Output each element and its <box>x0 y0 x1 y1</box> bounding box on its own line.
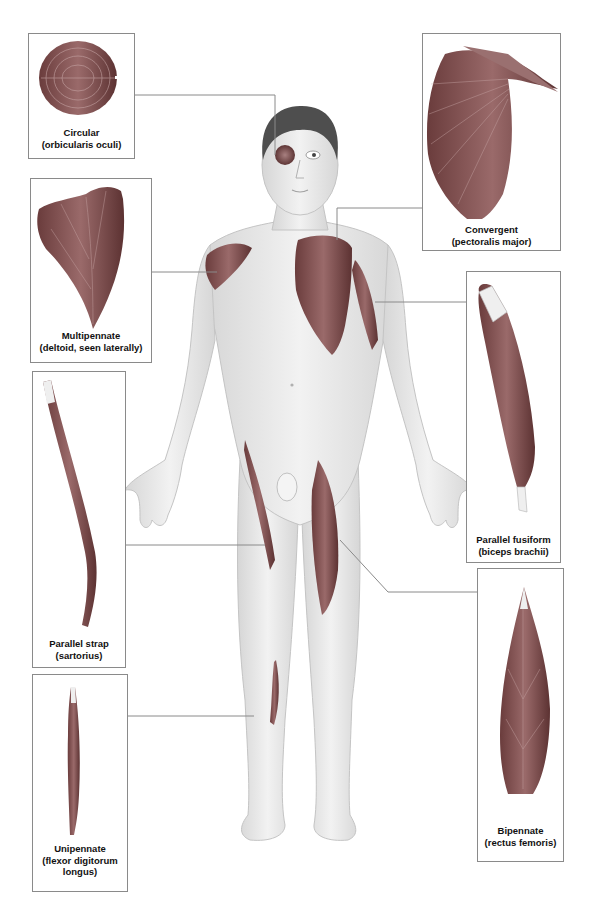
label-box-bipennate: Bipennate (rectus femoris) <box>477 568 564 862</box>
label-example-line-2: longus) <box>33 866 127 878</box>
label-box-circular: Circular (orbicularis oculi) <box>28 33 135 159</box>
label-example: (orbicularis oculi) <box>29 139 134 151</box>
unipennate-muscle-illustration <box>33 675 127 855</box>
label-example: (sartorius) <box>33 650 125 662</box>
bipennate-muscle-illustration <box>478 569 563 819</box>
orbicularis-oculi-on-figure <box>275 145 295 165</box>
label-box-unipennate: Unipennate (flexor digitorum longus) <box>32 674 128 892</box>
label-name: Circular <box>29 127 134 139</box>
label-example: (deltoid, seen laterally) <box>31 342 151 354</box>
multipennate-muscle-illustration <box>31 179 151 329</box>
label-name: Parallel fusiform <box>467 534 560 546</box>
label-box-convergent: Convergent (pectoralis major) <box>422 33 561 251</box>
circular-muscle-illustration <box>29 34 134 126</box>
label-example: (biceps brachii) <box>467 546 560 558</box>
label-name: Bipennate <box>478 825 563 837</box>
label-name: Multipennate <box>31 330 151 342</box>
label-box-multipennate: Multipennate (deltoid, seen laterally) <box>30 178 152 363</box>
body-silhouette <box>125 115 473 840</box>
label-example-line-1: (flexor digitorum <box>33 855 127 867</box>
strap-muscle-illustration <box>33 372 125 632</box>
label-box-parallel-fusiform: Parallel fusiform (biceps brachii) <box>466 271 561 563</box>
convergent-muscle-illustration <box>423 34 560 219</box>
label-example: (rectus femoris) <box>478 837 563 849</box>
label-example: (pectoralis major) <box>423 236 560 248</box>
label-name: Convergent <box>423 224 560 236</box>
label-name: Parallel strap <box>33 638 125 650</box>
fusiform-muscle-illustration <box>467 272 560 522</box>
label-name: Unipennate <box>33 843 127 855</box>
label-box-parallel-strap: Parallel strap (sartorius) <box>32 371 126 668</box>
